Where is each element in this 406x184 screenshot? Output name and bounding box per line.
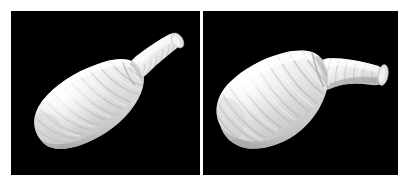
surface-render-left xyxy=(11,11,200,175)
panel-row: Left view xyxy=(0,0,406,184)
viewport-right xyxy=(203,11,398,175)
viewport-left xyxy=(11,11,200,175)
figure-root: Left view xyxy=(0,0,406,184)
render-panel-right: Right view xyxy=(203,11,398,175)
surface-render-right xyxy=(203,11,398,175)
render-panel-left: Left view xyxy=(11,11,200,175)
